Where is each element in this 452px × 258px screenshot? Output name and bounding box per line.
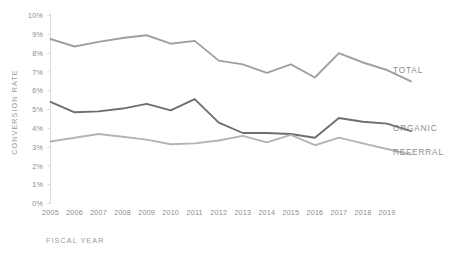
x-axis-tick-label: 2015 <box>282 208 299 217</box>
x-axis-title: FISCAL YEAR <box>46 236 104 245</box>
series-label-referral: REFERRAL <box>393 148 444 157</box>
x-axis-tick-label: 2017 <box>331 208 348 217</box>
y-axis-tick-labels: 0%1%2%3%4%5%6%7%8%9%10% <box>28 11 43 208</box>
y-axis-tick-label: 0% <box>32 199 43 208</box>
series-lines <box>51 35 412 154</box>
x-axis-tick-label: 2008 <box>114 208 131 217</box>
x-axis-tick-label: 2012 <box>210 208 227 217</box>
y-axis-title-group: CONVERSION RATE <box>10 69 19 154</box>
x-axis-tick-label: 2009 <box>138 208 155 217</box>
series-end-labels: TOTALORGANICREFERRAL <box>393 66 444 156</box>
y-axis-tick-label: 10% <box>28 11 43 20</box>
y-axis-tick-label: 7% <box>32 68 43 77</box>
x-axis-tick-label: 2018 <box>355 208 372 217</box>
x-axis-tick-label: 2013 <box>234 208 251 217</box>
y-axis-tick-label: 2% <box>32 162 43 171</box>
x-axis-tick-label: 2007 <box>90 208 107 217</box>
chart-canvas: CONVERSION RATE FISCAL YEAR 0%1%2%3%4%5%… <box>0 0 452 258</box>
x-axis-tick-labels: 2005200620072008200920102011201220132014… <box>42 208 395 217</box>
x-axis-tick-label: 2010 <box>162 208 179 217</box>
y-axis-tick-label: 4% <box>32 124 43 133</box>
y-axis-tick-label: 1% <box>32 180 43 189</box>
y-axis-tick-label: 9% <box>32 30 43 39</box>
y-axis-tick-label: 8% <box>32 49 43 58</box>
x-axis-tick-label: 2005 <box>42 208 59 217</box>
series-label-total: TOTAL <box>393 66 423 75</box>
series-line-total <box>51 35 412 81</box>
y-axis-title: CONVERSION RATE <box>10 69 19 154</box>
x-axis-tick-label: 2006 <box>66 208 83 217</box>
y-axis-tick-label: 3% <box>32 143 43 152</box>
series-line-organic <box>51 99 412 138</box>
series-label-organic: ORGANIC <box>393 124 438 133</box>
y-axis-tick-label: 5% <box>32 105 43 114</box>
x-axis-title-group: FISCAL YEAR <box>46 236 104 245</box>
x-axis-tick-label: 2014 <box>258 208 275 217</box>
y-axis-tick-label: 6% <box>32 86 43 95</box>
series-line-referral <box>51 134 412 155</box>
conversion-rate-chart: CONVERSION RATE FISCAL YEAR 0%1%2%3%4%5%… <box>0 0 452 258</box>
x-axis-tick-label: 2019 <box>379 208 396 217</box>
x-axis-tick-label: 2011 <box>187 208 203 217</box>
x-axis-tick-label: 2016 <box>306 208 323 217</box>
